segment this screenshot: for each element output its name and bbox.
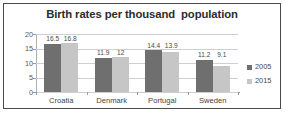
x-axis-tick-mark bbox=[188, 92, 189, 95]
x-axis-tick-mark bbox=[137, 92, 138, 95]
y-axis-tick-mark bbox=[33, 34, 36, 35]
chart-container: Birth rates per thousand population 2015… bbox=[3, 3, 281, 109]
x-axis-tick-mark bbox=[87, 92, 88, 95]
bar-group bbox=[95, 34, 129, 92]
bar-value-label: 12 bbox=[113, 49, 129, 56]
chart-legend: 20052015 bbox=[247, 61, 281, 89]
bar-sweden-2005 bbox=[196, 60, 213, 92]
bar-group bbox=[44, 34, 78, 92]
legend-label: 2015 bbox=[255, 76, 271, 85]
bar-value-label: 14.4 bbox=[146, 42, 162, 49]
bar-value-label: 11.9 bbox=[95, 49, 111, 56]
x-axis-category-sweden: Sweden bbox=[188, 96, 239, 105]
bar-denmark-2015 bbox=[112, 57, 129, 92]
bar-group bbox=[196, 34, 230, 92]
y-axis-tick-label: 0 bbox=[19, 89, 33, 96]
y-axis-tick-label: 10 bbox=[19, 60, 33, 67]
bar-value-label: 13.9 bbox=[163, 42, 179, 49]
x-axis-tick-mark bbox=[36, 92, 37, 95]
chart-plot-wrapper: Birth rates per thousand population 2015… bbox=[4, 4, 280, 108]
bar-value-label: 16.8 bbox=[62, 35, 78, 42]
x-axis-category-croatia: Croatia bbox=[36, 96, 87, 105]
y-axis-tick-label: 20 bbox=[19, 31, 33, 38]
y-axis-tick-mark bbox=[33, 63, 36, 64]
x-axis-category-denmark: Denmark bbox=[87, 96, 138, 105]
bar-sweden-2015 bbox=[213, 66, 230, 92]
chart-title: Birth rates per thousand population bbox=[22, 8, 262, 20]
x-axis-category-portugal: Portugal bbox=[137, 96, 188, 105]
x-axis-tick-mark bbox=[238, 92, 239, 95]
legend-swatch-icon bbox=[247, 65, 252, 70]
bar-croatia-2015 bbox=[61, 43, 78, 92]
y-axis-tick-label: 5 bbox=[19, 74, 33, 81]
legend-swatch-icon bbox=[247, 79, 252, 84]
bar-croatia-2005 bbox=[44, 44, 61, 92]
bar-denmark-2005 bbox=[95, 58, 112, 93]
legend-label: 2005 bbox=[255, 62, 271, 71]
y-axis-tick-label: 15 bbox=[19, 45, 33, 52]
y-axis-tick-mark bbox=[33, 78, 36, 79]
y-axis-tick-mark bbox=[33, 49, 36, 50]
legend-item-2015[interactable]: 2015 bbox=[247, 75, 281, 89]
y-axis-labels: 20151050 bbox=[16, 34, 33, 92]
bar-value-label: 9.1 bbox=[214, 51, 230, 58]
legend-item-2005[interactable]: 2005 bbox=[247, 61, 281, 75]
bar-portugal-2015 bbox=[162, 52, 179, 92]
plot-area: 16.516.811.91214.413.911.29.1 bbox=[36, 34, 238, 92]
bar-value-label: 16.5 bbox=[45, 35, 61, 42]
bar-value-label: 11.2 bbox=[196, 51, 212, 58]
bar-portugal-2005 bbox=[145, 50, 162, 92]
